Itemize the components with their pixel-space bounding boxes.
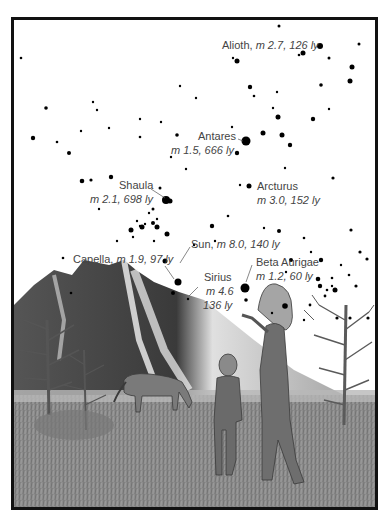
star-label-shaula: Shaula: [119, 179, 153, 192]
illustration-frame: Alioth, m 2.7, 126 ly Antares m 1.5, 666…: [11, 17, 378, 510]
scene-illustration: [14, 20, 375, 507]
star-label-arcturus-data: m 3.0, 152 ly: [257, 194, 320, 207]
star-label-arcturus: Arcturus: [257, 180, 298, 193]
star-label-beta-aurigae-data: m 1.2, 60 ly: [256, 270, 313, 283]
star-label-sun: Sun, m 8.0, 140 ly: [191, 238, 280, 251]
star-label-antares: Antares: [198, 130, 236, 143]
star-label-antares-data: m 1.5, 666 ly: [171, 144, 234, 157]
star-label-sirius-mag: m 4.6: [206, 285, 234, 298]
star-label-beta-aurigae: Beta Aurigae: [256, 256, 319, 269]
star-label-sirius-dist: 136 ly: [203, 299, 232, 312]
leader-lines: [151, 139, 252, 296]
star-label-capella: Capella, m 1.9, 97 ly: [73, 253, 173, 266]
star-label-alioth: Alioth, m 2.7, 126 ly: [222, 39, 319, 52]
star-label-sirius: Sirius: [204, 271, 232, 284]
star-label-shaula-data: m 2.1, 698 ly: [90, 193, 153, 206]
